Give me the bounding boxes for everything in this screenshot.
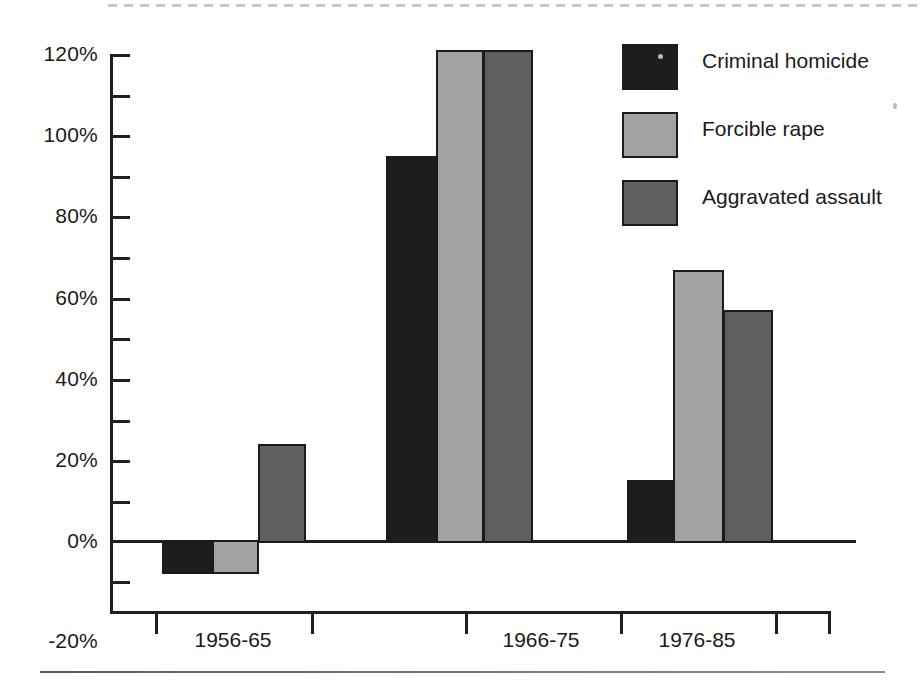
bar-1976-85-forcible-rape <box>673 270 724 543</box>
y-axis-label-100: 100% <box>14 123 98 147</box>
legend-item-aggravated-assault: Aggravated assault <box>622 174 912 242</box>
legend-label-aggravated-assault: Aggravated assault <box>702 185 882 209</box>
y-axis-label-80: 80% <box>14 204 98 228</box>
bar-1956-65-criminal-homicide <box>162 540 213 574</box>
page-bottom-rule <box>40 671 885 673</box>
y-tick-70 <box>110 257 130 260</box>
y-axis-label-60: 60% <box>14 286 98 310</box>
bar-1976-85-criminal-homicide <box>627 480 674 543</box>
y-tick-50 <box>110 338 130 341</box>
x-axis-label-1966-75: 1966-75 <box>461 628 621 652</box>
legend-item-forcible-rape: Forcible rape <box>622 106 912 174</box>
y-tick-minus-10 <box>110 581 130 584</box>
y-tick-minus-20 <box>110 611 130 614</box>
bar-1966-75-aggravated-assault <box>483 50 533 543</box>
y-tick-80 <box>110 216 130 219</box>
x-axis-label-1956-65: 1956-65 <box>153 628 313 652</box>
y-tick-100 <box>110 135 130 138</box>
y-tick-20 <box>110 460 130 463</box>
page-speck <box>893 103 897 109</box>
x-axis-line <box>110 611 831 614</box>
bar-1966-75-forcible-rape <box>436 50 484 543</box>
y-tick-60 <box>110 298 130 301</box>
y-tick-90 <box>110 176 130 179</box>
grouped-bar-chart: 120% 100% 80% 60% 40% 20% 0% -20% 1956-6… <box>0 0 923 688</box>
y-axis-line <box>110 54 113 614</box>
bar-1966-75-criminal-homicide <box>386 156 437 543</box>
y-axis-label-40: 40% <box>14 367 98 391</box>
y-tick-10 <box>110 501 130 504</box>
y-axis-label-20: 20% <box>14 448 98 472</box>
legend-item-criminal-homicide: Criminal homicide <box>622 38 912 106</box>
y-tick-110 <box>110 95 130 98</box>
legend-swatch-forcible-rape <box>622 112 678 158</box>
legend-swatch-aggravated-assault <box>622 180 678 226</box>
legend-label-criminal-homicide: Criminal homicide <box>702 49 869 73</box>
bar-1956-65-forcible-rape <box>212 540 259 574</box>
y-tick-40 <box>110 379 130 382</box>
x-axis-label-1976-85: 1976-85 <box>617 628 777 652</box>
legend-label-forcible-rape: Forcible rape <box>702 117 825 141</box>
legend-swatch-criminal-homicide <box>622 44 678 90</box>
swatch-speck <box>658 54 663 59</box>
chart-legend: Criminal homicide Forcible rape Aggravat… <box>622 38 912 242</box>
y-axis-label-120: 120% <box>14 42 98 66</box>
y-axis-label-minus-20: -20% <box>14 629 98 653</box>
y-tick-30 <box>110 420 130 423</box>
bar-1976-85-aggravated-assault <box>723 310 773 543</box>
bar-1956-65-aggravated-assault <box>258 444 306 543</box>
y-axis-label-0: 0% <box>14 529 98 553</box>
y-tick-120 <box>110 54 130 57</box>
x-tick-6 <box>828 614 831 634</box>
